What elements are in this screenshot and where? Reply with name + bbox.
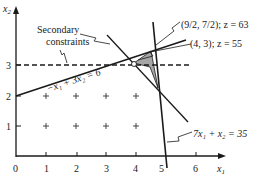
- x-tick-1: 1: [44, 163, 49, 174]
- leader-secondary-to-dashed: [60, 50, 67, 63]
- x-tick-5: 5: [159, 163, 164, 174]
- constraint-line-1: [16, 40, 186, 96]
- lattice-points: [43, 93, 139, 129]
- label-point-9-2-7-2: (9/2, 7/2); z = 63: [181, 19, 249, 31]
- x-axis-arrow-icon: [218, 153, 226, 159]
- x-tick-4: 4: [133, 163, 138, 174]
- ip-graph: 0 1 2 3 4 5 6 1 2 3 x2 x1 Secondary cons…: [0, 0, 253, 179]
- y-tick-1: 1: [6, 121, 11, 132]
- label-constraint-1: −x₁ + 3x₂ = 6: [45, 66, 102, 94]
- label-point-4-3: (4, 3); z = 55: [190, 38, 242, 50]
- x-tick-2: 2: [74, 163, 79, 174]
- y-axis-arrow-icon: [13, 6, 19, 14]
- y-tick-2: 2: [6, 91, 11, 102]
- leader-constraint-2: [167, 132, 192, 142]
- secondary-constraint-line: [107, 35, 188, 122]
- x-tick-0: 0: [13, 163, 18, 174]
- secondary-label-line2: constraints: [46, 36, 89, 47]
- x-tick-6: 6: [193, 163, 198, 174]
- point-4-3-marker: [132, 62, 137, 67]
- secondary-label-line1: Secondary: [37, 24, 79, 35]
- x-tick-3: 3: [104, 163, 109, 174]
- x-axis-label: x1: [216, 163, 225, 176]
- leader-point-9-2: [156, 22, 180, 45]
- label-constraint-2: 7x₁ + x₂ = 35: [193, 128, 247, 139]
- y-axis-label: x2: [2, 3, 11, 16]
- y-tick-3: 3: [6, 60, 11, 71]
- constraint-line-2: [153, 22, 167, 168]
